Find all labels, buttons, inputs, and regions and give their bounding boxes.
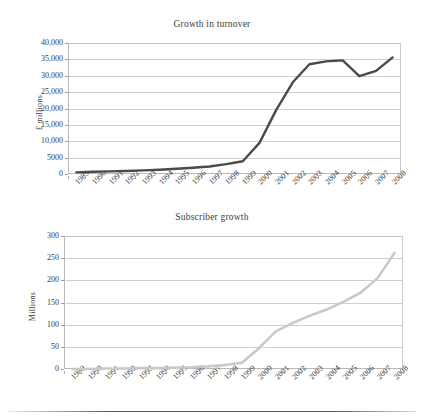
chart1-series-line [0,0,424,210]
series-path [76,57,392,172]
chart-subscriber-growth: Subscriber growth 300250200150100500 Mil… [0,202,424,402]
chart-growth-in-turnover: Growth in turnover 40,00035,00030,00025,… [0,0,424,210]
series-path [72,253,394,369]
chart2-series-line [0,202,424,402]
chart-page: Growth in turnover 40,00035,00030,00025,… [0,0,424,419]
footer-divider [8,411,416,412]
